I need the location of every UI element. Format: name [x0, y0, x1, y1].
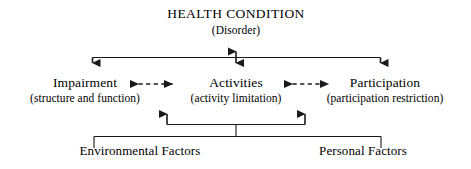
activities-title: Activities	[209, 76, 263, 90]
participation-subtitle: (participation restriction)	[327, 92, 444, 104]
personal-factors-label: Personal Factors	[319, 144, 407, 158]
icf-interaction-diagram: HEALTH CONDITION (Disorder) Impairment (…	[0, 0, 471, 169]
impairment-title: Impairment	[53, 76, 117, 90]
health-condition-subtitle: (Disorder)	[212, 24, 260, 36]
environmental-factors-label: Environmental Factors	[80, 144, 201, 158]
health-condition-title: HEALTH CONDITION	[167, 7, 305, 21]
participation-title: Participation	[350, 76, 420, 90]
activities-subtitle: (activity limitation)	[191, 92, 282, 104]
health-condition-connector-group	[93, 52, 381, 64]
impairment-subtitle: (structure and function)	[30, 92, 140, 104]
